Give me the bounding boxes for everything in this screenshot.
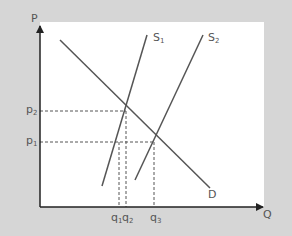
q2-tick-label: q2 <box>122 212 133 225</box>
demand-curve <box>60 40 210 188</box>
p2-tick-label: p2 <box>26 104 37 117</box>
guide-lines <box>40 111 154 207</box>
supply-curve-s2 <box>135 35 203 180</box>
s2-label: S2 <box>208 32 219 45</box>
supply-curve-s1 <box>102 35 147 186</box>
y-axis-label: P <box>31 13 38 24</box>
q3-tick-label: q3 <box>150 212 161 225</box>
q1-tick-label: q1 <box>111 212 122 225</box>
s1-label: S1 <box>153 32 164 45</box>
demand-label: D <box>208 189 216 200</box>
x-axis-label: Q <box>263 209 272 220</box>
supply-demand-diagram <box>0 0 292 236</box>
p1-tick-label: p1 <box>26 135 37 148</box>
